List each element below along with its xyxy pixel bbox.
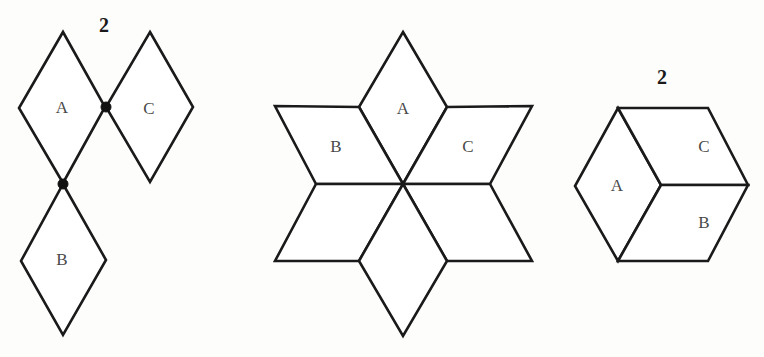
- hex-rhombus-C-label: C: [698, 137, 710, 156]
- hex-rhombus-B-label: B: [698, 213, 710, 232]
- rhombus-B-label: B: [56, 250, 68, 269]
- junction-dot-upper: [101, 102, 111, 112]
- figure-right: A C B 2: [575, 66, 748, 261]
- junction-dot-lower: [58, 179, 68, 189]
- star-rhombus-top-label: A: [397, 99, 410, 118]
- rhombus-C-label: C: [143, 99, 155, 118]
- figure-right-count-label: 2: [657, 66, 667, 88]
- figure-canvas: A B C 2 A B C A C B 2: [0, 0, 764, 357]
- rhombus-A-label: A: [56, 98, 69, 117]
- star-rhombus-upper-right-label: C: [462, 137, 474, 156]
- hex-rhombus-A-label: A: [611, 176, 624, 195]
- figure-left-count-label: 2: [99, 14, 109, 36]
- figure-middle: A B C: [275, 32, 532, 336]
- star-rhombus-upper-left-label: B: [330, 137, 342, 156]
- figure-left: A B C 2: [19, 14, 193, 335]
